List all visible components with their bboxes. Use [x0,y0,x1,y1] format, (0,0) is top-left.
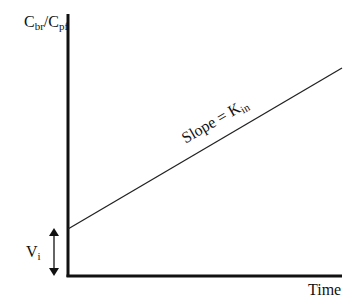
diagram-canvas [0,0,357,308]
slope-line [68,68,342,229]
x-axis-label: Time [308,282,341,298]
intercept-label: Vi [26,244,41,262]
y-axis-label: Cbr/Cpf [24,14,68,32]
